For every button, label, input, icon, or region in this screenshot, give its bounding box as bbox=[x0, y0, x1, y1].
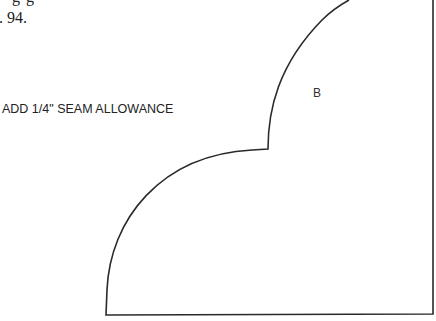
pattern-piece-label: B bbox=[313, 86, 321, 100]
pattern-piece-outline bbox=[0, 0, 436, 321]
